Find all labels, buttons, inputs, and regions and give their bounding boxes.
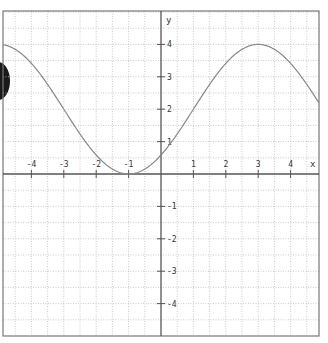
svg-text:-3: -3 <box>167 267 177 276</box>
svg-text:-4: -4 <box>167 300 177 309</box>
svg-text:-2: -2 <box>91 160 101 169</box>
svg-text:-3: -3 <box>59 160 69 169</box>
function-plot: -4-3-2-11234-4-3-2-11234 x y <box>0 0 328 343</box>
x-axis-label: x <box>310 159 316 169</box>
svg-text:-4: -4 <box>27 160 37 169</box>
y-axis-label: y <box>166 15 172 25</box>
axes <box>3 11 319 336</box>
svg-text:-2: -2 <box>167 235 177 244</box>
svg-text:-1: -1 <box>167 202 177 211</box>
svg-text:2: 2 <box>223 160 228 169</box>
svg-text:1: 1 <box>191 160 196 169</box>
svg-text:3: 3 <box>167 73 172 82</box>
svg-text:2: 2 <box>167 105 172 114</box>
svg-text:4: 4 <box>288 160 293 169</box>
svg-text:4: 4 <box>167 40 172 49</box>
svg-text:3: 3 <box>256 160 261 169</box>
svg-text:-1: -1 <box>124 160 134 169</box>
